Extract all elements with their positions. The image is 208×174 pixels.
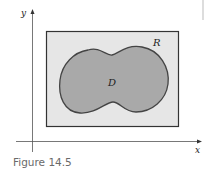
y-axis-arrow-icon [31, 9, 35, 14]
x-axis-arrow-icon [197, 140, 202, 144]
y-axis-label: y [20, 8, 27, 18]
domain-label: D [107, 77, 116, 88]
x-axis-label: x [195, 145, 200, 155]
figure-caption: Figure 14.5 [13, 156, 72, 168]
figure-diagram: y x R D [0, 0, 208, 174]
rectangle-label: R [152, 37, 161, 48]
